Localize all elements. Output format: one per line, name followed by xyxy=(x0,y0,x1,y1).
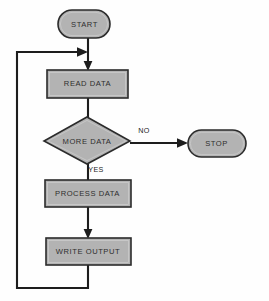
node-process-data-label: PROCESS DATA xyxy=(55,189,120,198)
node-start[interactable]: START xyxy=(58,10,110,38)
node-read-data[interactable]: READ DATA xyxy=(47,70,128,98)
node-more-data[interactable]: MORE DATA xyxy=(44,117,130,164)
node-stop[interactable]: STOP xyxy=(188,130,246,157)
node-read-data-label: READ DATA xyxy=(64,79,112,88)
node-more-data-label: MORE DATA xyxy=(63,137,112,146)
edge-more-data-to-stop xyxy=(130,138,188,148)
edge-label-no: NO xyxy=(138,126,150,135)
edge-start-to-read-data xyxy=(84,38,93,71)
node-process-data[interactable]: PROCESS DATA xyxy=(45,180,131,207)
node-write-output-label: WRITE OUTPUT xyxy=(56,247,120,256)
node-start-label: START xyxy=(71,20,98,29)
node-stop-label: STOP xyxy=(205,139,228,148)
arrowhead-right-icon xyxy=(77,47,88,57)
flowchart-svg: START READ DATA MORE DATA STOP PROCESS D… xyxy=(0,0,269,301)
edge-label-yes: YES xyxy=(88,165,104,174)
arrowhead-right-icon xyxy=(177,138,188,148)
flowchart-canvas: START READ DATA MORE DATA STOP PROCESS D… xyxy=(0,0,269,301)
edge-process-data-to-write-output xyxy=(84,207,93,239)
node-write-output[interactable]: WRITE OUTPUT xyxy=(46,238,131,265)
